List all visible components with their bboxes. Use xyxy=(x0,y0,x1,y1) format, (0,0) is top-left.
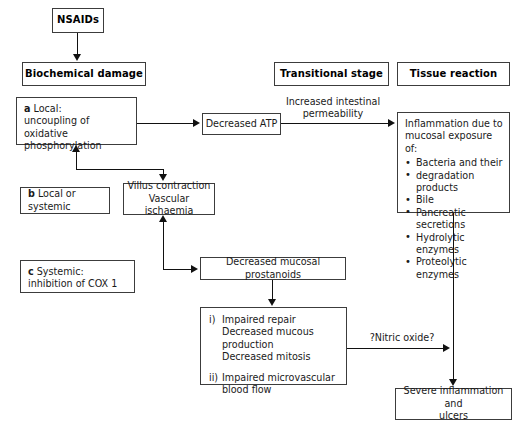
node-impaired-i-line3: Decreased mitosis xyxy=(222,351,340,363)
node-decreased-prostanoids[interactable]: Decreased mucosal prostanoids xyxy=(200,257,346,280)
arrowhead-right-nitric-oxide xyxy=(443,344,450,352)
edge-elbow-a-horizontal xyxy=(76,169,164,170)
arrowhead-right-atp xyxy=(193,119,200,127)
header-biochemical-damage[interactable]: Biochemical damage xyxy=(22,62,146,86)
node-inflammation-bullets: Bacteria and their •degradation products… xyxy=(405,157,503,281)
header-transitional-stage-label: Transitional stage xyxy=(280,68,383,80)
node-impaired-i-line1: Impaired repair xyxy=(222,314,340,326)
edge-nsaids-to-biochemical xyxy=(77,33,78,56)
node-decreased-prostanoids-label: Decreased mucosal prostanoids xyxy=(201,256,345,281)
node-local-uncoupling-line1: a Local: xyxy=(24,103,130,115)
node-villus-line2: Vascular ischaemia xyxy=(124,193,214,218)
node-impaired-repair[interactable]: i) Impaired repair Decreased mucous prod… xyxy=(200,307,347,385)
header-tissue-reaction[interactable]: Tissue reaction xyxy=(397,62,510,86)
node-local-or-systemic-label: Local or systemic xyxy=(28,188,76,211)
list-item: Pancreatic secretions xyxy=(405,207,503,232)
node-impaired-i-line2: Decreased mucous production xyxy=(222,326,340,351)
node-systemic-cox-tag: c xyxy=(28,266,34,277)
node-inflammation[interactable]: Inflammation due to mucosal exposure of:… xyxy=(397,112,510,213)
edge-a-to-atp xyxy=(137,123,195,124)
spacer xyxy=(209,364,340,372)
edge-label-increased-permeability: Increased intestinal permeability xyxy=(283,96,383,120)
node-local-uncoupling-tag: a xyxy=(24,103,30,114)
node-impaired-i-mark: i) xyxy=(209,314,215,326)
edge-prostanoids-to-impaired xyxy=(272,280,273,300)
header-transitional-stage[interactable]: Transitional stage xyxy=(274,62,389,86)
edge-impaired-to-trunk xyxy=(347,348,445,349)
node-systemic-cox-line2: inhibition of COX 1 xyxy=(28,278,128,290)
edge-atp-to-inflammation xyxy=(281,123,389,124)
node-local-or-systemic-tag: b xyxy=(28,188,35,199)
edge-prostanoids-to-villus-vertical xyxy=(163,222,164,269)
node-severe-line2: ulcers xyxy=(439,410,468,422)
node-severe-line1: Severe inflammation and xyxy=(396,385,511,410)
node-systemic-cox[interactable]: c Systemic: inhibition of COX 1 xyxy=(20,260,135,293)
node-local-or-systemic[interactable]: b Local or systemic xyxy=(20,187,110,214)
node-local-uncoupling[interactable]: a Local: uncoupling of oxidative phospho… xyxy=(16,97,137,145)
node-villus-line1: Villus contraction xyxy=(128,180,211,192)
node-nsaids[interactable]: NSAIDs xyxy=(52,8,104,33)
arrowhead-down-impaired xyxy=(268,299,276,306)
edge-label-nitric-oxide: ?Nitric oxide? xyxy=(356,332,448,344)
flowchart-canvas: NSAIDs Biochemical damage Transitional s… xyxy=(0,0,520,429)
node-impaired-ii-line1: Impaired microvascular xyxy=(222,372,340,384)
arrowhead-down-biochemical xyxy=(73,54,81,61)
node-decreased-atp-label: Decreased ATP xyxy=(206,118,278,130)
node-inflammation-line2: mucosal exposure of: xyxy=(405,130,503,155)
node-impaired-ii-line2: blood flow xyxy=(222,384,340,396)
edge-elbow-a-vertical xyxy=(76,152,77,170)
list-item: Hydrolytic enzymes xyxy=(405,232,503,257)
list-item: Bacteria and their xyxy=(405,157,503,169)
node-severe-inflammation[interactable]: Severe inflammation and ulcers xyxy=(395,388,512,420)
arrowhead-right-inflammation xyxy=(388,119,395,127)
node-local-uncoupling-line3: oxidative phosphorylation xyxy=(24,128,130,153)
header-biochemical-damage-label: Biochemical damage xyxy=(25,68,143,80)
node-impaired-ii-mark: ii) xyxy=(209,372,218,384)
node-local-uncoupling-line2: uncoupling of xyxy=(24,115,130,127)
list-item: Proteolytic enzymes xyxy=(405,256,503,281)
node-nsaids-label: NSAIDs xyxy=(57,14,99,26)
arrowhead-right-prostanoids xyxy=(191,265,198,273)
node-inflammation-line1: Inflammation due to xyxy=(405,118,503,130)
edge-prostanoids-horizontal xyxy=(163,269,193,270)
node-villus-contraction[interactable]: Villus contraction Vascular ischaemia xyxy=(123,183,215,215)
node-systemic-cox-line1: c Systemic: xyxy=(28,266,128,278)
node-impaired-item-i: i) Impaired repair Decreased mucous prod… xyxy=(209,314,340,364)
header-tissue-reaction-label: Tissue reaction xyxy=(410,68,498,80)
node-decreased-atp[interactable]: Decreased ATP xyxy=(202,113,281,135)
node-impaired-item-ii: ii) Impaired microvascular blood flow xyxy=(209,372,340,397)
list-item: Bile xyxy=(405,194,503,206)
list-item-continuation: •degradation products xyxy=(405,170,503,195)
